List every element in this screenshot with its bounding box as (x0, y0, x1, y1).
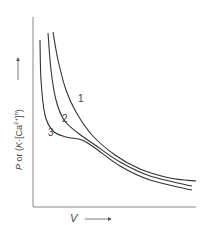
curve-2 (48, 33, 192, 186)
y-label-p: P (14, 164, 24, 170)
curve-label-1: 1 (78, 93, 84, 104)
curve-label-3: 3 (48, 127, 54, 138)
curve-1 (53, 32, 196, 181)
y-axis-label: P or (K·[Ca2+]n) (13, 50, 29, 170)
x-label-v: V (70, 212, 77, 224)
chart-plot-area: 123 (0, 0, 217, 235)
chart-figure: 123 P or (K·[Ca2+]n) V (0, 0, 217, 235)
curve-label-2: 2 (62, 113, 68, 124)
x-axis-label: V (70, 212, 77, 224)
y-label-k: K (14, 142, 24, 148)
curves-group (40, 32, 196, 190)
y-label-exponent: n (13, 112, 19, 115)
y-label-end: ) (14, 109, 24, 112)
y-label-or: or ( (14, 148, 24, 164)
y-label-ca: ·[Ca (14, 125, 24, 142)
y-label-charge: 2+ (13, 118, 19, 125)
